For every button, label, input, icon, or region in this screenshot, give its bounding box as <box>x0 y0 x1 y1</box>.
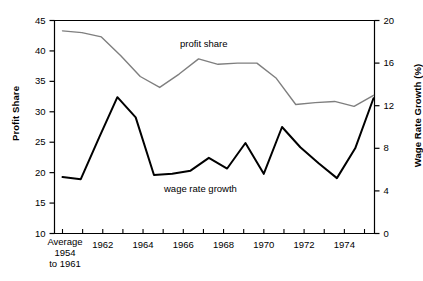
axis-frame <box>55 21 375 234</box>
series-line-wage-rate-growth <box>63 97 374 179</box>
series-line-profit-share <box>63 31 374 106</box>
